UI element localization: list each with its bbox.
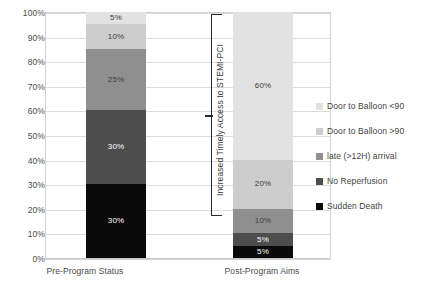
bar-segment[interactable]: 30% (86, 110, 146, 184)
y-axis-tick-mark (41, 209, 45, 210)
bar-segment-value-label: 25% (108, 76, 124, 84)
legend-item[interactable]: Door to Balloon >90 (316, 125, 429, 137)
legend: Door to Balloon <90Door to Balloon >90la… (316, 100, 429, 225)
legend-item-label: Door to Balloon <90 (327, 101, 404, 111)
bar-segment-value-label: 5% (257, 236, 269, 244)
bar-segment[interactable]: 30% (86, 184, 146, 258)
bar-pre-program[interactable]: 5%10%25%30%30% (86, 12, 146, 258)
bar-segment-value-label: 10% (255, 217, 271, 225)
bar-segment[interactable]: 10% (86, 24, 146, 49)
legend-swatch-icon (316, 178, 323, 185)
y-axis-tick-label: 100% (5, 8, 45, 18)
bar-segment[interactable]: 10% (233, 209, 293, 234)
y-axis-tick-label: 50% (5, 131, 45, 141)
legend-item[interactable]: No Reperfusion (316, 175, 429, 187)
legend-item[interactable]: late (>12H) arrival (316, 150, 429, 162)
bar-segment[interactable]: 20% (233, 160, 293, 209)
plot-area: 5%10%25%30%30%60%20%10%5%5% (45, 12, 331, 260)
y-axis-tick-mark (41, 62, 45, 63)
annotation-label: Increased Timely Access to STEMI-PCI (215, 15, 225, 225)
legend-swatch-icon (316, 153, 323, 160)
legend-item[interactable]: Door to Balloon <90 (316, 100, 429, 112)
y-axis-tick-mark (41, 37, 45, 38)
legend-item-label: Sudden Death (327, 201, 383, 211)
stacked-bar-chart: 0%10%20%30%40%50%60%70%80%90%100% 5%10%2… (0, 0, 429, 290)
bar-segment-value-label: 5% (257, 248, 269, 256)
y-axis-tick-mark (41, 185, 45, 186)
y-axis-tick-mark (41, 259, 45, 260)
y-axis-tick-label: 20% (5, 205, 45, 215)
y-axis-tick-label: 30% (5, 180, 45, 190)
annotation-container: Increased Timely Access to STEMI-PCI (191, 10, 209, 225)
x-axis-line (46, 258, 330, 259)
y-axis-tick-label: 80% (5, 57, 45, 67)
legend-swatch-icon (316, 103, 323, 110)
y-axis-tick-mark (41, 234, 45, 235)
y-axis: 0%10%20%30%40%50%60%70%80%90%100% (0, 12, 45, 260)
bar-segment[interactable]: 5% (233, 246, 293, 258)
bar-segment-value-label: 30% (108, 217, 124, 225)
bar-segment[interactable]: 60% (233, 12, 293, 160)
x-axis-label-pre: Pre-Program Status (10, 266, 160, 276)
bar-segment-value-label: 30% (108, 143, 124, 151)
bar-segment[interactable]: 5% (233, 233, 293, 245)
legend-item-label: No Reperfusion (327, 176, 387, 186)
legend-item[interactable]: Sudden Death (316, 200, 429, 212)
y-axis-tick-label: 60% (5, 106, 45, 116)
y-axis-tick-mark (41, 111, 45, 112)
y-axis-tick-mark (41, 160, 45, 161)
legend-item-label: late (>12H) arrival (327, 151, 397, 161)
y-axis-tick-label: 40% (5, 156, 45, 166)
y-axis-tick-mark (41, 13, 45, 14)
legend-item-label: Door to Balloon >90 (327, 126, 404, 136)
bar-segment[interactable]: 5% (86, 12, 146, 24)
legend-swatch-icon (316, 128, 323, 135)
bar-post-program[interactable]: 60%20%10%5%5% (233, 12, 293, 258)
legend-swatch-icon (316, 203, 323, 210)
bar-segment-value-label: 5% (110, 14, 122, 22)
y-axis-tick-label: 70% (5, 82, 45, 92)
y-axis-tick-mark (41, 136, 45, 137)
bar-segment[interactable]: 25% (86, 49, 146, 111)
y-axis-tick-mark (41, 86, 45, 87)
bar-segment-value-label: 10% (108, 33, 124, 41)
y-axis-tick-label: 10% (5, 229, 45, 239)
bar-segment-value-label: 60% (255, 82, 271, 90)
bar-segment-value-label: 20% (255, 180, 271, 188)
x-axis-label-post: Post-Program Aims (187, 266, 337, 276)
y-axis-tick-label: 0% (5, 254, 45, 264)
y-axis-tick-label: 90% (5, 33, 45, 43)
